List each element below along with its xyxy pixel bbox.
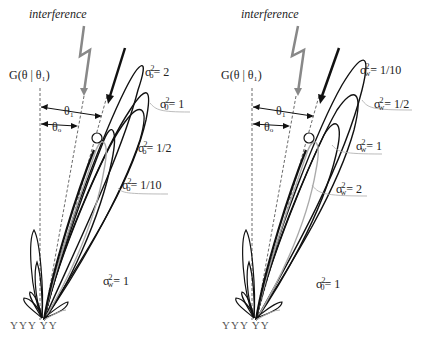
theta0-label: θₒ: [264, 120, 273, 135]
curve-label-1: σ2o= 2: [145, 64, 169, 80]
curve-label-3: σ2w= 1: [356, 138, 382, 154]
fixed-param-label: σ20= 1: [316, 276, 340, 292]
curve-label-4: σ2w= 2: [336, 181, 362, 197]
curve-label-2: σ2w= 1/2: [374, 96, 409, 112]
left-beampattern-panel: interference G(θ | θ₁) θ₁ θₒ σ2o= 2 σ20=…: [0, 0, 212, 342]
antenna-array: YYY YY: [10, 319, 58, 331]
gain-label: G(θ | θ₁): [221, 68, 262, 83]
right-beampattern-panel: interference G(θ | θ₁) θ₁ θₒ σ2w= 1/10 σ…: [212, 0, 424, 342]
fixed-param-label: σ2w= 1: [103, 273, 129, 289]
theta1-label: θ₁: [276, 104, 286, 119]
interference-label: interference: [29, 7, 87, 22]
interference-label: interference: [241, 7, 299, 22]
curve-label-1: σ2w= 1/10: [360, 62, 401, 78]
curve-label-4: σ2o= 1/10: [122, 177, 162, 193]
antenna-array: YYY YY: [222, 319, 270, 331]
theta1-label: θ₁: [64, 104, 74, 119]
gain-label: G(θ | θ₁): [9, 68, 50, 83]
curve-label-3: σ2o= 1/2: [138, 140, 172, 156]
theta0-label: θₒ: [52, 120, 61, 135]
curve-label-2: σ20= 1: [160, 96, 184, 112]
beampattern-drawing: [0, 0, 212, 342]
